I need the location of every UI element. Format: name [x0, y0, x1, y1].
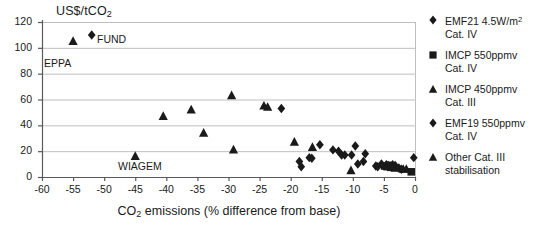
x-axis-tick-label: -45 [120, 183, 150, 195]
y-axis-title-text: US$/tCO [56, 4, 107, 18]
chart-figure: US$/tCO2 CO2 emissions (% difference fro… [0, 0, 545, 238]
legend-entry-2[interactable]: IMCP 450ppmvCat. III [428, 83, 545, 108]
y-axis-tick-label: 100 [4, 41, 32, 53]
point-annotation-eppa: EPPA [44, 57, 71, 69]
y-axis-tick-label: 40 [4, 118, 32, 130]
x-axis-tick-label: -10 [338, 183, 368, 195]
point-annotation-wiagem: WIAGEM [118, 160, 162, 172]
legend-marker-shape [429, 85, 437, 93]
legend-label-line2: stabilisation [445, 164, 545, 177]
point-annotation-fund: FUND [97, 33, 126, 45]
legend-entry-4[interactable]: Other Cat. IIIstabilisation [428, 151, 545, 176]
legend-entry-0[interactable]: EMF21 4.5W/m2Cat. IV [428, 14, 545, 40]
y-axis-tick-label: 80 [4, 67, 32, 79]
legend-label-line1: IMCP 450ppmv [445, 83, 517, 95]
x-axis-tick-label: -30 [214, 183, 244, 195]
y-axis-tick-label: 20 [4, 144, 32, 156]
x-axis-tick-label: -5 [369, 183, 399, 195]
chart-legend: EMF21 4.5W/m2Cat. IVIMCP 550ppmvCat. IVI… [428, 14, 545, 185]
x-axis-tick-label: -50 [89, 183, 119, 195]
legend-label-superscript: 2 [518, 15, 522, 24]
legend-marker-shape [429, 153, 437, 161]
legend-label-line1: IMCP 550ppmv [445, 49, 517, 61]
x-axis-tick-label: -40 [151, 183, 181, 195]
y-axis-tick-label: 120 [4, 15, 32, 27]
legend-label-line1: Other Cat. III [445, 151, 505, 163]
legend-label-line2: Cat. IV [445, 130, 545, 143]
legend-label-line1: EMF19 550ppmv [445, 117, 525, 129]
y-axis-title-subscript: 2 [107, 9, 112, 19]
legend-entry-1[interactable]: IMCP 550ppmvCat. IV [428, 49, 545, 74]
x-axis-tick-label: -20 [276, 183, 306, 195]
x-axis-tick-label: -55 [58, 183, 88, 195]
legend-marker-triangle-icon [428, 152, 438, 162]
x-axis-tick-label: -60 [27, 183, 57, 195]
legend-label-line2: Cat. III [445, 96, 545, 109]
x-axis-tick-label: -15 [307, 183, 337, 195]
x-axis-title-suffix: emissions (% difference from base) [141, 204, 340, 218]
x-axis-tick-label: -25 [245, 183, 275, 195]
x-axis-tick-label: -35 [182, 183, 212, 195]
legend-label-line1: EMF21 4.5W/m [445, 15, 518, 27]
legend-marker-diamond-icon [428, 118, 438, 128]
legend-marker-shape [429, 16, 436, 25]
legend-entry-3[interactable]: EMF19 550ppmvCat. IV [428, 117, 545, 142]
legend-marker-shape [429, 119, 436, 128]
legend-label-line2: Cat. IV [445, 28, 545, 41]
data-point-square [391, 164, 399, 172]
y-axis-tick-label: 60 [4, 93, 32, 105]
legend-label-line2: Cat. IV [445, 62, 545, 75]
x-axis-tick-label: 0 [400, 183, 430, 195]
x-axis-title: CO2 emissions (% difference from base) [42, 204, 416, 219]
legend-marker-square-icon [428, 50, 438, 60]
y-axis-tick-label: 0 [4, 170, 32, 182]
x-axis-title-prefix: CO [118, 204, 137, 218]
legend-marker-diamond-icon [428, 15, 438, 25]
y-axis-title: US$/tCO2 [56, 4, 112, 19]
legend-marker-triangle-icon [428, 84, 438, 94]
legend-marker-shape [429, 51, 436, 58]
